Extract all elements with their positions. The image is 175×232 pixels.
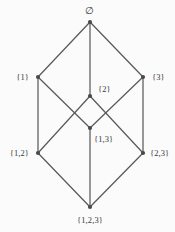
lattice-node-s123[interactable] xyxy=(88,205,92,209)
lattice-node-s23[interactable] xyxy=(141,151,145,155)
lattice-node-s12[interactable] xyxy=(36,151,40,155)
node-label-s123: {1,2,3} xyxy=(77,216,103,225)
lattice-node-s13[interactable] xyxy=(88,126,92,130)
node-label-s12: {1,2} xyxy=(10,149,29,158)
lattice-node-s2[interactable] xyxy=(88,94,92,98)
lattice-edge xyxy=(90,22,143,77)
node-label-s3: {3} xyxy=(152,73,165,82)
lattice-svg xyxy=(0,0,175,232)
lattice-node-empty[interactable] xyxy=(88,20,92,24)
lattice-node-s1[interactable] xyxy=(36,75,40,79)
lattice-edge xyxy=(38,77,90,128)
lattice-edge xyxy=(90,96,143,153)
lattice-edge xyxy=(38,22,90,77)
node-label-s23: {2,3} xyxy=(150,149,169,158)
lattice-diagram: ∅{1}{2}{3}{1,2}{1,3}{2,3}{1,2,3} xyxy=(0,0,175,232)
lattice-edge xyxy=(38,96,90,153)
node-label-s2: {2} xyxy=(98,85,111,94)
edges-group xyxy=(38,22,143,207)
lattice-edge xyxy=(90,153,143,207)
lattice-edge xyxy=(38,153,90,207)
node-label-s13: {1,3} xyxy=(94,135,113,144)
node-label-s1: {1} xyxy=(16,73,29,82)
lattice-node-s3[interactable] xyxy=(141,75,145,79)
node-label-empty: ∅ xyxy=(85,6,94,16)
